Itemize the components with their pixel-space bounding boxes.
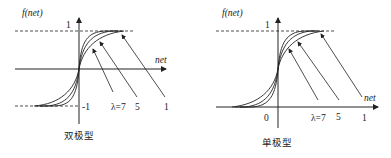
bipolar-panel: f(net) 1 net -1 λ=7 5 1 双极型 bbox=[15, 8, 169, 141]
lambda-label-7: λ=7 bbox=[311, 113, 326, 123]
pointer-lambda-7 bbox=[93, 49, 113, 92]
upper-tick: 1 bbox=[66, 20, 71, 30]
lambda-label-5: 5 bbox=[336, 112, 341, 122]
curve-lambda-5 bbox=[79, 31, 122, 69]
curve-lambda-1 bbox=[79, 31, 124, 69]
pointer-lambda-7 bbox=[289, 49, 318, 100]
unipolar-panel: f(net) 1 net 0 λ=7 5 1 单极型 bbox=[216, 8, 378, 148]
x-axis-label: net bbox=[364, 93, 376, 103]
curve-lambda-5 bbox=[278, 31, 320, 69]
curve-lambda-1 bbox=[278, 31, 324, 69]
activation-functions-figure: f(net) 1 net -1 λ=7 5 1 双极型 f(net) 1 net… bbox=[0, 0, 391, 158]
lambda-label-1: 1 bbox=[164, 102, 169, 112]
caption-bipolar: 双极型 bbox=[64, 130, 94, 141]
y-axis-label: f(net) bbox=[222, 8, 243, 19]
lambda-label-5: 5 bbox=[135, 102, 140, 112]
caption-unipolar: 单极型 bbox=[262, 137, 292, 148]
y-axis-label: f(net) bbox=[22, 8, 43, 19]
curve-lambda-7 bbox=[79, 31, 118, 69]
lambda-label-1: 1 bbox=[362, 113, 367, 123]
upper-tick: 1 bbox=[265, 20, 270, 30]
pointer-lambda-5 bbox=[298, 42, 339, 100]
lower-tick: -1 bbox=[82, 102, 90, 112]
lambda-label-7: λ=7 bbox=[111, 102, 126, 112]
pointer-lambda-1 bbox=[321, 34, 362, 97]
origin-tick: 0 bbox=[264, 113, 269, 123]
x-axis-label: net bbox=[155, 55, 167, 65]
pointer-lambda-1 bbox=[122, 35, 165, 97]
